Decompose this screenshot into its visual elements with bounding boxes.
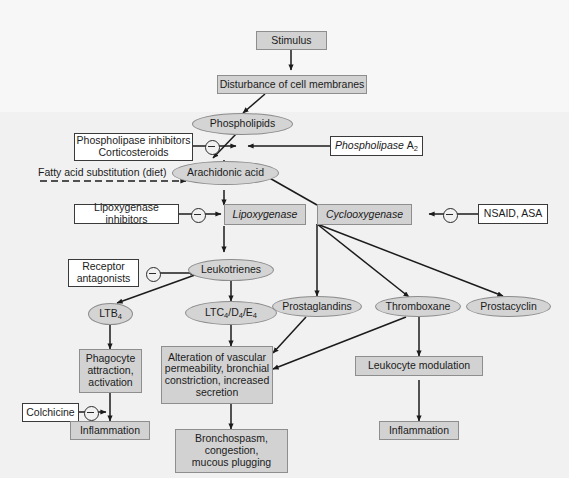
node-arachidonic-label: Arachidonic acid (187, 167, 264, 179)
node-ltb4-label: LTB4 (99, 308, 122, 320)
node-inflammation-right: Inflammation (379, 421, 459, 440)
node-leukotrienes: Leukotrienes (188, 259, 274, 281)
inhibition-symbol-colchicine (84, 406, 99, 421)
node-thromboxane: Thromboxane (375, 296, 461, 317)
node-lipoxygenase: Lipoxygenase (224, 204, 306, 225)
node-colchicine-label: Colchicine (26, 407, 74, 419)
lipoxygenase-inhibitors-label: Lipoxygenase inhibitors (75, 202, 178, 226)
inflammation-right-label: Inflammation (389, 425, 449, 437)
node-thromboxane-label: Thromboxane (386, 301, 451, 313)
receptor-antagonists-line2: antagonists (77, 273, 131, 285)
alteration-line3: constriction, increased (165, 375, 269, 387)
ltb4-subscript: 4 (118, 312, 122, 321)
inflammation-left-label: Inflammation (80, 425, 140, 437)
node-nsaid-label: NSAID, ASA (484, 208, 542, 220)
leukocyte-modulation-label: Leukocyte modulation (368, 360, 470, 372)
node-cyclooxygenase-label: Cyclooxygenase (326, 209, 403, 221)
node-lipoxygenase-inhibitors: Lipoxygenase inhibitors (74, 204, 179, 224)
connector-layer (0, 0, 569, 478)
node-alteration-vascular: Alteration of vascular permeability, bro… (161, 346, 273, 404)
node-prostacyclin-label: Prostacyclin (480, 301, 537, 313)
inhibition-symbol-lipoxygenase (191, 208, 206, 223)
node-disturbance-label: Disturbance of cell membranes (220, 79, 365, 91)
node-leukotrienes-label: Leukotrienes (201, 264, 261, 276)
inhibition-symbol-nsaid (443, 208, 458, 223)
node-phospholipids: Phospholipids (192, 113, 293, 135)
node-prostaglandins: Prostaglandins (272, 296, 362, 317)
figure-canvas: Stimulus Disturbance of cell membranes P… (0, 0, 569, 478)
fatty-acid-label: Fatty acid substitution (diet) (38, 167, 166, 179)
node-colchicine: Colchicine (22, 403, 79, 422)
node-phospholipids-label: Phospholipids (210, 118, 275, 130)
node-stimulus: Stimulus (256, 31, 327, 50)
node-phospholipase-inhibitors: Phospholipase inhibitors Corticosteroids (74, 133, 193, 161)
node-inflammation-left: Inflammation (70, 421, 150, 440)
phospholipase-a2-label: Phospholipase A2 (335, 140, 418, 152)
node-ltb4: LTB4 (88, 303, 133, 325)
inhibition-symbol-receptor (146, 267, 161, 282)
node-ltc4-d4-e4: LTC4/D4/E4 (185, 301, 277, 325)
node-prostacyclin: Prostacyclin (466, 296, 551, 317)
node-phospholipase-a2: Phospholipase A2 (330, 136, 423, 156)
node-disturbance: Disturbance of cell membranes (217, 75, 367, 94)
node-phagocyte-attraction: Phagocyte attraction, activation (79, 349, 142, 393)
node-cyclooxygenase: Cyclooxygenase (317, 204, 412, 225)
phospholipase-inhibitors-line2: Corticosteroids (98, 147, 168, 159)
node-leukocyte-modulation: Leukocyte modulation (355, 356, 483, 376)
inhibition-symbol-phospholipase (205, 140, 220, 155)
bronchospasm-line3: mucous plugging (192, 457, 271, 469)
phospholipase-a2-subscript: 2 (414, 144, 418, 153)
phospholipase-a2-a: A (407, 139, 414, 151)
alteration-line4: secretion (196, 387, 239, 399)
node-arachidonic-acid: Arachidonic acid (172, 161, 279, 185)
node-receptor-antagonists: Receptor antagonists (68, 259, 139, 287)
node-bronchospasm: Bronchospasm, congestion, mucous pluggin… (175, 429, 288, 473)
node-ltc4-label: LTC4/D4/E4 (205, 307, 257, 319)
phagocyte-line3: activation (88, 377, 132, 389)
figure-page: Stimulus Disturbance of cell membranes P… (0, 0, 569, 495)
phospholipase-a2-word: Phospholipase (335, 139, 404, 151)
node-lipoxygenase-label: Lipoxygenase (233, 209, 298, 221)
node-stimulus-label: Stimulus (271, 35, 311, 47)
node-prostaglandins-label: Prostaglandins (282, 301, 351, 313)
ltb4-text: LTB (99, 307, 117, 319)
node-nsaid: NSAID, ASA (478, 204, 548, 224)
